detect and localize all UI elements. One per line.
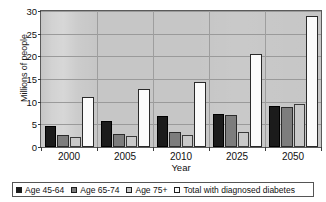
bar-2025-series-3 bbox=[250, 54, 262, 147]
bar-2010-series-0 bbox=[157, 116, 169, 147]
y-axis-tick-label: 0 bbox=[32, 142, 37, 153]
bar-2010-series-1 bbox=[169, 132, 181, 147]
bar-2025-series-1 bbox=[225, 115, 237, 147]
y-axis-tick-label: 30 bbox=[26, 6, 37, 17]
x-axis-tick-label: 2050 bbox=[282, 151, 304, 162]
x-axis-tick-mark bbox=[153, 147, 154, 151]
bar-2000-series-3 bbox=[82, 97, 94, 147]
group-divider bbox=[265, 11, 266, 147]
bar-2005-series-3 bbox=[138, 89, 150, 147]
legend-label: Age 75+ bbox=[135, 185, 167, 195]
legend-swatch-icon bbox=[16, 187, 22, 193]
bar-2010-series-3 bbox=[194, 82, 206, 147]
legend-label: Age 45-64 bbox=[25, 185, 64, 195]
y-axis-tick-label: 25 bbox=[26, 28, 37, 39]
y-axis-tick-mark bbox=[38, 11, 41, 12]
x-axis-tick-mark bbox=[209, 147, 210, 151]
legend-item-0[interactable]: Age 45-64 bbox=[16, 185, 64, 195]
y-axis-tick-mark bbox=[38, 79, 41, 80]
gridline bbox=[41, 56, 321, 57]
y-axis-title: Millions of people bbox=[19, 3, 29, 133]
x-axis-tick-mark bbox=[265, 147, 266, 151]
bar-2025-series-2 bbox=[238, 132, 250, 147]
group-divider bbox=[153, 11, 154, 147]
bar-2010-series-2 bbox=[182, 135, 194, 147]
legend-item-3[interactable]: Total with diagnosed diabetes bbox=[174, 185, 295, 195]
x-axis-tick-mark bbox=[41, 147, 42, 151]
legend-swatch-icon bbox=[126, 187, 132, 193]
legend-swatch-icon bbox=[71, 187, 77, 193]
gridline bbox=[41, 34, 321, 35]
y-axis-tick-mark bbox=[38, 34, 41, 35]
bar-2000-series-0 bbox=[45, 126, 57, 147]
legend-item-1[interactable]: Age 65-74 bbox=[71, 185, 119, 195]
x-axis-tick-label: 2010 bbox=[170, 151, 192, 162]
diabetes-projection-bar-chart: Millions of people 051015202530 Year Age… bbox=[0, 0, 326, 202]
bar-2005-series-2 bbox=[126, 136, 138, 147]
y-axis-tick-mark bbox=[38, 102, 41, 103]
bar-2005-series-1 bbox=[113, 134, 125, 147]
x-axis-title: Year bbox=[40, 162, 322, 173]
x-axis-tick-mark bbox=[97, 147, 98, 151]
chart-legend: Age 45-64Age 65-74Age 75+Total with diag… bbox=[12, 182, 314, 197]
legend-label: Total with diagnosed diabetes bbox=[183, 185, 295, 195]
y-axis-tick-mark bbox=[38, 56, 41, 57]
plot-area: 051015202530 bbox=[40, 10, 322, 148]
legend-item-2[interactable]: Age 75+ bbox=[126, 185, 167, 195]
bar-2050-series-1 bbox=[281, 107, 293, 147]
bar-2050-series-2 bbox=[294, 104, 306, 147]
bar-2025-series-0 bbox=[213, 114, 225, 147]
bar-2050-series-3 bbox=[306, 16, 318, 147]
x-axis-tick-label: 2025 bbox=[226, 151, 248, 162]
legend-label: Age 65-74 bbox=[80, 185, 119, 195]
bar-2005-series-0 bbox=[101, 121, 113, 147]
legend-swatch-icon bbox=[174, 187, 180, 193]
bar-2000-series-2 bbox=[70, 137, 82, 147]
bar-2000-series-1 bbox=[57, 135, 69, 147]
y-axis-tick-label: 10 bbox=[26, 96, 37, 107]
y-axis-tick-label: 20 bbox=[26, 51, 37, 62]
bar-2050-series-0 bbox=[269, 106, 281, 147]
group-divider bbox=[209, 11, 210, 147]
x-axis-tick-label: 2000 bbox=[58, 151, 80, 162]
group-divider bbox=[97, 11, 98, 147]
gridline bbox=[41, 11, 321, 12]
x-axis-tick-label: 2005 bbox=[114, 151, 136, 162]
x-axis-tick-mark bbox=[321, 147, 322, 151]
gridline bbox=[41, 79, 321, 80]
y-axis-tick-label: 5 bbox=[32, 119, 37, 130]
y-axis-tick-label: 15 bbox=[26, 74, 37, 85]
y-axis-tick-mark bbox=[38, 124, 41, 125]
